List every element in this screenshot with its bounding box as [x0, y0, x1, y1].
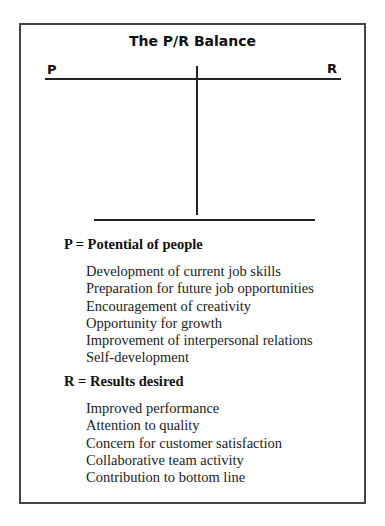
balance-left-label: P	[47, 62, 57, 77]
list-item: Opportunity for growth	[86, 315, 314, 332]
section-heading-potential: P = Potential of people	[64, 236, 203, 253]
diagram-title: The P/R Balance	[0, 33, 385, 49]
list-item: Contribution to bottom line	[86, 469, 282, 486]
list-item: Improved performance	[86, 400, 282, 417]
section-heading-results: R = Results desired	[64, 373, 184, 390]
list-item: Self-development	[86, 349, 314, 366]
balance-right-label: R	[327, 61, 337, 76]
list-item: Development of current job skills	[86, 263, 314, 280]
list-item: Concern for customer satisfaction	[86, 435, 282, 452]
list-item: Attention to quality	[86, 417, 282, 434]
list-item: Encouragement of creativity	[86, 298, 314, 315]
balance-base	[94, 219, 315, 221]
results-list: Improved performance Attention to qualit…	[86, 400, 282, 486]
balance-beam	[45, 78, 341, 80]
balance-post	[196, 66, 198, 215]
list-item: Collaborative team activity	[86, 452, 282, 469]
list-item: Improvement of interpersonal relations	[86, 332, 314, 349]
list-item: Preparation for future job opportunities	[86, 280, 314, 297]
potential-list: Development of current job skills Prepar…	[86, 263, 314, 367]
